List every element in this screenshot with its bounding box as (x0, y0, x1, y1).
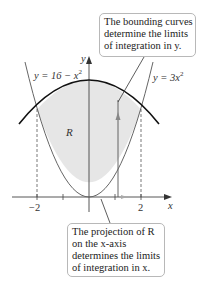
callout-top-line: of integration in y. (104, 40, 191, 52)
callout-bottom-line: The projection of R (72, 226, 160, 238)
region-label: R (66, 126, 73, 138)
x-direction-arrow-icon (121, 195, 127, 199)
leader-line-bottom (101, 199, 110, 223)
lower-curve-label: y = 3x2 (153, 70, 183, 83)
lower-curve-exponent: 2 (180, 70, 184, 78)
x-tick-label-neg2: −2 (29, 202, 40, 213)
callout-bottom-line: on the x-axis (72, 238, 160, 250)
y-axis-arrow-icon (86, 56, 92, 64)
callout-bottom-line: of integration in x. (72, 262, 160, 274)
callout-top-line: The bounding curves (104, 16, 191, 28)
callout-bottom: The projection of R on the x-axis determ… (67, 223, 165, 277)
lower-curve-equation: y = 3x (153, 72, 180, 83)
x-axis-label: x (168, 200, 173, 211)
callout-bottom-line: determines the limits (72, 250, 160, 262)
callout-top-line: determine the limits (104, 28, 191, 40)
x-tick-label-2: 2 (138, 202, 143, 213)
upper-curve-label: y = 16 − x2 (34, 68, 82, 81)
callout-top: The bounding curves determine the limits… (99, 13, 196, 57)
upper-curve-exponent: 2 (79, 68, 83, 76)
y-axis-label: y (81, 53, 86, 64)
upper-curve-equation: y = 16 − x (34, 70, 79, 81)
